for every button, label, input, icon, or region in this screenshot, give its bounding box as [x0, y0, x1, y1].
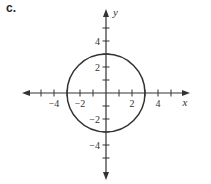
x-tick-label: −4: [49, 98, 60, 109]
y-tick-label: −2: [89, 114, 100, 125]
y-tick-label: 2: [95, 62, 100, 73]
x-tick-label: 4: [156, 98, 161, 109]
y-axis-down-arrow-icon: [103, 172, 109, 180]
coordinate-plane: −4−22442−2−4xy: [0, 0, 211, 184]
x-axis-label: x: [182, 96, 188, 108]
x-axis-left-arrow-icon: [22, 90, 30, 96]
y-axis-up-arrow-icon: [103, 9, 109, 17]
y-tick-label: 4: [95, 36, 100, 47]
x-tick-label: −2: [75, 98, 86, 109]
y-axis-label: y: [112, 6, 118, 18]
y-tick-label: −4: [89, 140, 100, 151]
x-tick-label: 2: [130, 98, 135, 109]
